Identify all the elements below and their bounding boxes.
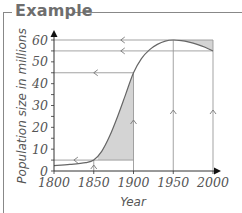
x-axis-label: Year: [120, 195, 147, 209]
y-tick-label: 30: [32, 98, 48, 113]
shaded-regions: [98, 40, 213, 160]
y-tick-label: 20: [31, 120, 48, 135]
x-tick-label: 1950: [157, 175, 189, 190]
y-tick-label: 60: [32, 33, 48, 48]
population-chart: 010203040506018001850190019502000 Year P…: [0, 0, 242, 213]
axes: [51, 30, 222, 175]
y-tick-label: 10: [32, 142, 48, 157]
shaded-region-1: [173, 40, 213, 51]
y-axis-label: Population size in millions: [15, 28, 29, 183]
x-tick-label: 1900: [118, 175, 150, 190]
reference-lines: [54, 37, 216, 171]
x-tick-label: 1800: [38, 175, 70, 190]
x-tick-label: 1850: [78, 175, 110, 190]
x-tick-label: 2000: [196, 175, 229, 190]
y-axis-arrow-icon: [51, 30, 58, 37]
y-tick-label: 40: [31, 76, 48, 91]
y-tick-label: 50: [32, 54, 48, 69]
x-axis-arrow-icon: [214, 168, 221, 175]
